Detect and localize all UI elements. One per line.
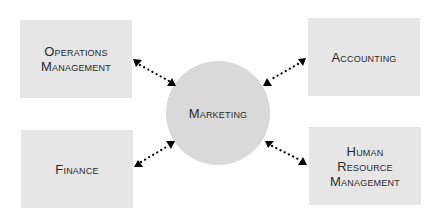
arrowhead-icon [263, 78, 272, 86]
connector-finance-marketing [134, 141, 175, 167]
arrowhead-icon [133, 59, 142, 67]
node-label: Finance [55, 162, 98, 177]
node-label: Accounting [331, 50, 396, 65]
node-operations-management: Operations Management [20, 20, 132, 98]
arrowhead-icon [298, 58, 306, 66]
node-human-resource-management: Human Resource Management [309, 127, 421, 205]
arrowhead-icon [166, 141, 175, 149]
connector-accounting-marketing [263, 58, 306, 86]
center-node-marketing: Marketing [166, 61, 270, 165]
arrowhead-icon [298, 157, 307, 165]
node-label: Operations Management [41, 44, 111, 74]
arrowhead-icon [265, 141, 274, 148]
node-accounting: Accounting [308, 18, 420, 96]
node-finance: Finance [21, 130, 133, 208]
arrowhead-icon [134, 160, 143, 167]
diagram-canvas: Operations Management Accounting Finance… [0, 0, 437, 223]
node-label: Human Resource Management [330, 144, 400, 189]
connector-hrm-marketing [265, 141, 307, 165]
center-label: Marketing [189, 106, 248, 121]
connector-operations-marketing [133, 59, 176, 86]
